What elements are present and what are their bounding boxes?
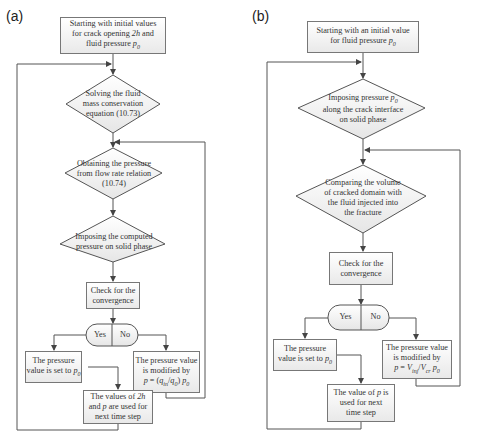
step-a-3-text: Imposing the computed pressure on solid … bbox=[70, 226, 158, 258]
no-result-b: The pressure valueis modified byp = Vinj… bbox=[382, 340, 452, 379]
check-box-b: Check for the convergence bbox=[329, 252, 393, 285]
panel-b-label: (b) bbox=[252, 8, 269, 24]
step-b-2-text: Comparing the volume of cracked domain w… bbox=[323, 172, 403, 224]
final-box-b: The value of p isused for nexttime step bbox=[327, 384, 395, 422]
no-label-b: No bbox=[362, 310, 389, 324]
step-a-2-text: Obtaining the pressure from flow rate re… bbox=[74, 158, 154, 190]
yes-label-a: Yes bbox=[88, 328, 112, 342]
yes-result-b: The pressurevalue is set to p0 bbox=[273, 339, 337, 371]
start-text-a: Starting with initial valuesfor crack op… bbox=[70, 19, 157, 52]
step-b-1-text: Imposing pressure p0along the crack inte… bbox=[314, 93, 412, 125]
yes-label-b: Yes bbox=[331, 310, 360, 324]
no-result-a: The pressure valueis modified byp = (qin… bbox=[133, 351, 200, 393]
no-label-a: No bbox=[113, 328, 137, 342]
start-box-b: Starting with an initial valuefor fluid … bbox=[307, 21, 419, 53]
yes-result-a: The pressurevalue is set to p0 bbox=[25, 351, 82, 383]
check-box-a: Check for the convergence bbox=[86, 282, 140, 309]
final-box-a: The values of 2hand p are used fornext t… bbox=[83, 390, 153, 424]
start-box-a: Starting with initial valuesfor crack op… bbox=[60, 17, 166, 54]
step-a-1-text: Solving the fluid mass conservation equa… bbox=[78, 88, 148, 120]
panel-a-label: (a) bbox=[6, 8, 23, 24]
